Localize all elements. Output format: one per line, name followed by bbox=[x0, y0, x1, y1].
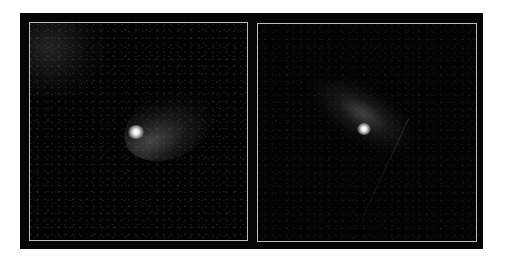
comet-nucleus bbox=[357, 123, 371, 135]
left-image-panel bbox=[29, 22, 248, 241]
right-image-panel bbox=[257, 23, 477, 242]
comet-nucleus bbox=[128, 125, 144, 139]
astronomical-figure bbox=[20, 13, 483, 249]
